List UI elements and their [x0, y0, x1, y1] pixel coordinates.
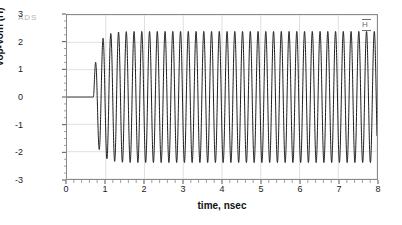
x-tick-label: 2	[132, 184, 156, 194]
x-tick-label: 0	[54, 184, 78, 194]
waveform-curve	[67, 15, 377, 179]
plot-area: H	[66, 14, 378, 180]
marker-h[interactable]: H	[362, 19, 371, 31]
marker-bar-bottom	[362, 30, 371, 31]
y-tick-label: -1	[0, 120, 23, 130]
x-tick-label: 5	[249, 184, 273, 194]
y-tick-label: -2	[0, 147, 23, 157]
x-tick-label: 4	[210, 184, 234, 194]
x-tick-label: 1	[93, 184, 117, 194]
x-tick-label: 8	[366, 184, 390, 194]
x-tick-label: 7	[327, 184, 351, 194]
y-axis-title: Vop-Vom (H)	[0, 0, 5, 97]
y-tick-label: -3	[0, 175, 23, 185]
marker-h-label: H	[362, 20, 368, 29]
ads-waveform-figure: ADS 3210-1-2-3 012345678 H Vop-Vom (H) t…	[0, 0, 402, 225]
x-tick-label: 6	[288, 184, 312, 194]
x-tick-label: 3	[171, 184, 195, 194]
x-axis-title: time, nsec	[66, 200, 378, 211]
